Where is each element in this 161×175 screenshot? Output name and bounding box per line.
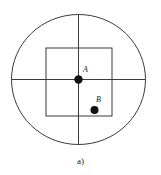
point-b-label: B bbox=[96, 96, 101, 104]
geometry-figure: A B a) bbox=[0, 0, 161, 175]
point-b-marker bbox=[91, 106, 99, 114]
point-a-marker bbox=[74, 75, 82, 83]
figure-caption: a) bbox=[0, 156, 161, 166]
point-a-label: A bbox=[83, 66, 88, 74]
figure-canvas bbox=[0, 0, 161, 175]
